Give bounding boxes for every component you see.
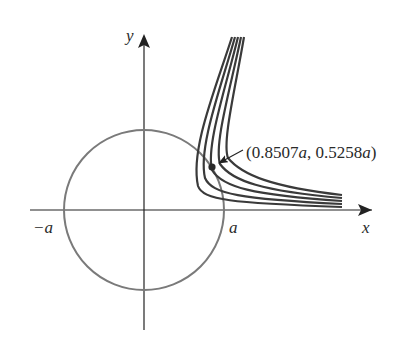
tick-label-pos-a: a	[229, 218, 238, 237]
point-label: (0.8507a, 0.5258a)	[246, 143, 376, 162]
tick-label-neg-a: −a	[33, 218, 53, 237]
level-curve-4	[219, 37, 342, 198]
tangent-point	[208, 163, 215, 170]
level-curve-3	[211, 37, 342, 201]
y-axis-label: y	[124, 26, 134, 45]
level-curve-5	[226, 37, 342, 195]
x-axis-label: x	[361, 218, 370, 237]
diagram-canvas: (0.8507a, 0.5258a) y x −a a	[0, 0, 418, 341]
